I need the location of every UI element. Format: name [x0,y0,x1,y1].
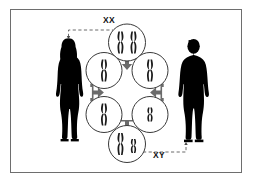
sex-determination-diagram: XX XY [0,0,254,184]
male-silhouette [178,39,209,142]
leader-line-female [67,30,113,39]
label-xy: XY [153,150,165,160]
label-xx: XX [103,15,115,25]
figure-root: XX XY [0,0,254,184]
cell-upper-left [86,53,122,89]
cell-lower-right [132,97,168,133]
leader-line-male [143,142,188,152]
cell-lower-left [86,97,122,133]
female-silhouette [56,38,83,141]
cell-upper-right [132,53,168,89]
cell-bottom [109,126,146,163]
